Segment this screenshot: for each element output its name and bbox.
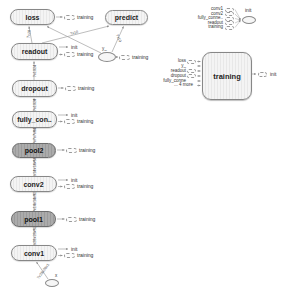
edge-label-pool1-conv2: ?x14x14x32: [33, 192, 37, 212]
init-fan-stub-conv1[interactable]: [225, 8, 234, 12]
node-conv1[interactable]: conv1: [11, 245, 57, 261]
training-output-init-stub[interactable]: [258, 72, 267, 77]
node-conv2-label: conv2: [23, 181, 43, 188]
edge-label-conv1-pool1: ?x28x28x32: [33, 226, 37, 246]
y-training-stub[interactable]: [119, 55, 130, 60]
node-loss-label: loss: [25, 14, 39, 21]
training-input-more[interactable]: ... 4 more: [160, 83, 193, 88]
node-x-input-ellipse[interactable]: [45, 279, 59, 287]
init-ellipse-label: init: [245, 8, 251, 13]
conv1-init-stub-label: init: [71, 247, 77, 252]
node-fully-connected[interactable]: fully_con..: [12, 111, 57, 128]
fully-init-stub-label: init: [71, 113, 77, 118]
edge-label-readout-predict: ?x10: [70, 30, 79, 36]
node-init-ellipse[interactable]: [242, 16, 256, 24]
node-predict[interactable]: predict: [105, 10, 148, 25]
edge-label-readout-loss: ?x10: [26, 30, 31, 39]
node-dropout[interactable]: dropout: [12, 80, 57, 97]
placeholder-labels: x y_: [55, 46, 107, 278]
y-training-stub-label: training: [132, 55, 148, 60]
fully-training-stub-label: training: [77, 119, 93, 124]
node-predict-label: predict: [115, 14, 138, 21]
training-output-init-label: init: [270, 72, 276, 77]
init-fan-stub-fully-connected[interactable]: [225, 17, 234, 21]
node-readout-label: readout: [22, 48, 48, 55]
conv1-training-stub-label: training: [77, 253, 93, 258]
init-fan-stub-readout[interactable]: [225, 21, 234, 25]
edge-label-fully-dropout: ?x1024: [33, 99, 37, 111]
node-pool2-label: pool2: [25, 147, 44, 154]
init-fan-item-training[interactable]: training: [195, 25, 223, 30]
node-dropout-label: dropout: [21, 85, 47, 92]
node-conv2[interactable]: conv2: [10, 176, 57, 192]
training-input-loss-stub[interactable]: [187, 60, 196, 64]
conv2-init-stub-label: init: [71, 178, 77, 183]
node-pool1-label: pool1: [24, 216, 43, 223]
edge-label-dropout-readout: ?x1024: [33, 65, 37, 77]
loss-training-stub-label: training: [77, 15, 93, 20]
readout-init-stub-label: init: [71, 45, 77, 50]
fully-training-stub[interactable]: [64, 119, 75, 124]
readout-training-stub-label: training: [77, 52, 93, 57]
training-input-dropout-stub[interactable]: [187, 74, 196, 78]
edge-label-conv2-pool2: ?x14x14x64: [33, 157, 37, 177]
readout-training-stub[interactable]: [64, 52, 75, 57]
node-pool2[interactable]: pool2: [12, 143, 56, 158]
loss-training-stub[interactable]: [64, 15, 75, 20]
node-fully-connected-label: fully_con..: [17, 116, 52, 123]
init-fan-lines: [235, 10, 241, 28]
node-pool1[interactable]: pool1: [11, 211, 56, 227]
dropout-training-stub[interactable]: [65, 86, 76, 91]
conv1-training-stub[interactable]: [64, 253, 75, 258]
training-input-readout-stub[interactable]: [187, 69, 196, 73]
pool2-training-stub-label: training: [79, 148, 95, 153]
graph-canvas: ?x1024 ?x1024 ?x7x7x64 ?x14x14x64 ?x14x1…: [0, 0, 281, 297]
edge-label-x-conv1: ?x28x28x1: [36, 263, 50, 280]
node-conv1-label: conv1: [24, 250, 44, 257]
x-input-label: x: [55, 273, 58, 278]
node-loss[interactable]: loss: [10, 9, 55, 25]
node-y-input-ellipse[interactable]: [98, 52, 116, 62]
pool1-training-stub-label: training: [79, 217, 95, 222]
edge-label-pool2-fully: ?x7x7x64: [33, 128, 37, 144]
y-input-label: y_: [102, 46, 107, 51]
node-readout[interactable]: readout: [11, 43, 58, 60]
conv2-training-stub-label: training: [77, 184, 93, 189]
pool2-training-stub[interactable]: [66, 148, 77, 153]
init-fan-stub-conv2[interactable]: [225, 12, 234, 16]
dropout-training-stub-label: training: [78, 86, 94, 91]
pool1-training-stub[interactable]: [66, 217, 77, 222]
conv2-training-stub[interactable]: [64, 184, 75, 189]
node-training-block-label: training: [213, 72, 241, 81]
node-training-block[interactable]: training: [202, 52, 252, 100]
edge-label-y-predict: ?x10: [115, 34, 122, 43]
init-fan-stub-training[interactable]: [225, 26, 234, 30]
